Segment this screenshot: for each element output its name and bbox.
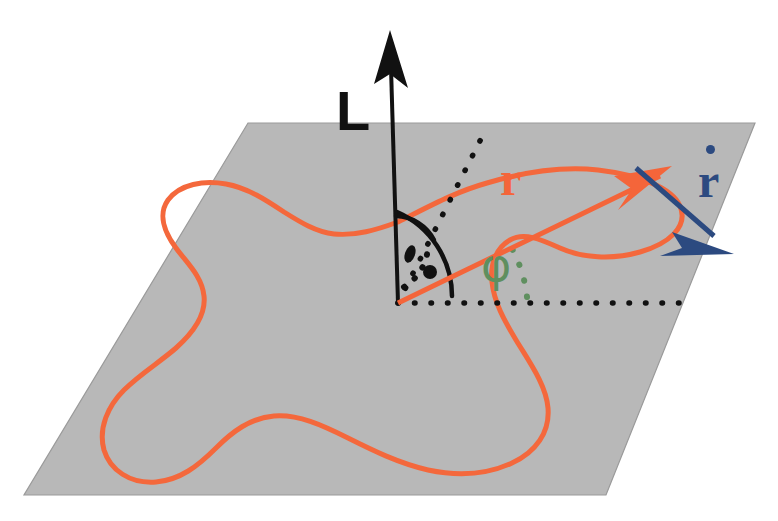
vector-label-r: r	[500, 155, 521, 203]
angle-dot-mark	[423, 265, 437, 279]
physics-diagram: L r r φ	[0, 0, 778, 521]
vector-label-r-dot: r	[698, 157, 719, 205]
vector-label-r-dot-text: r	[698, 154, 719, 207]
overdot-icon	[706, 145, 715, 154]
vector-label-L: L	[336, 83, 370, 139]
diagram-canvas	[0, 0, 778, 521]
angle-label-phi: φ	[481, 242, 511, 288]
